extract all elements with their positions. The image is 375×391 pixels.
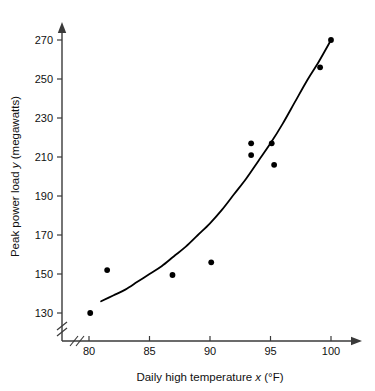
fit-curve	[101, 40, 331, 301]
y-axis-tick-label: 250	[35, 73, 53, 85]
x-axis-tick-label: 100	[322, 345, 340, 357]
x-axis-tick-label: 85	[143, 345, 155, 357]
y-axis-tick-label: 130	[35, 307, 53, 319]
axes-group	[57, 22, 362, 346]
data-point-marker	[104, 267, 110, 273]
y-axis-tick-label: 170	[35, 229, 53, 241]
data-point-marker	[87, 310, 93, 316]
x-axis-tick-label: 80	[83, 345, 95, 357]
x-axis-tick-label: 90	[204, 345, 216, 357]
x-axis-tick-label: 95	[264, 345, 276, 357]
data-point-marker	[208, 259, 214, 265]
y-axis-tick-label: 230	[35, 112, 53, 124]
y-axis-tick-label: 270	[35, 34, 53, 46]
trend-curve-path	[101, 40, 331, 301]
plot-canvas: 13015017019021023025027080859095100 Dail…	[0, 0, 375, 391]
ticks-group: 13015017019021023025027080859095100	[35, 34, 341, 357]
x-axis-title: Daily high temperature x (°F)	[136, 371, 283, 383]
y-axis-title: Peak power load y (megawatts)	[9, 96, 21, 257]
data-points-group	[87, 37, 334, 316]
y-axis-tick-label: 190	[35, 190, 53, 202]
data-point-marker	[271, 162, 277, 168]
data-point-marker	[248, 152, 254, 158]
y-axis-arrowhead-icon	[58, 22, 66, 33]
y-axis-tick-label: 150	[35, 268, 53, 280]
data-point-marker	[248, 140, 254, 146]
data-point-marker	[328, 37, 334, 43]
x-axis-arrowhead-icon	[351, 337, 362, 345]
y-axis-tick-label: 210	[35, 151, 53, 163]
data-point-marker	[317, 64, 323, 70]
data-point-marker	[269, 140, 275, 146]
data-point-marker	[170, 272, 176, 278]
scatter-plot-figure: 13015017019021023025027080859095100 Dail…	[0, 0, 375, 391]
